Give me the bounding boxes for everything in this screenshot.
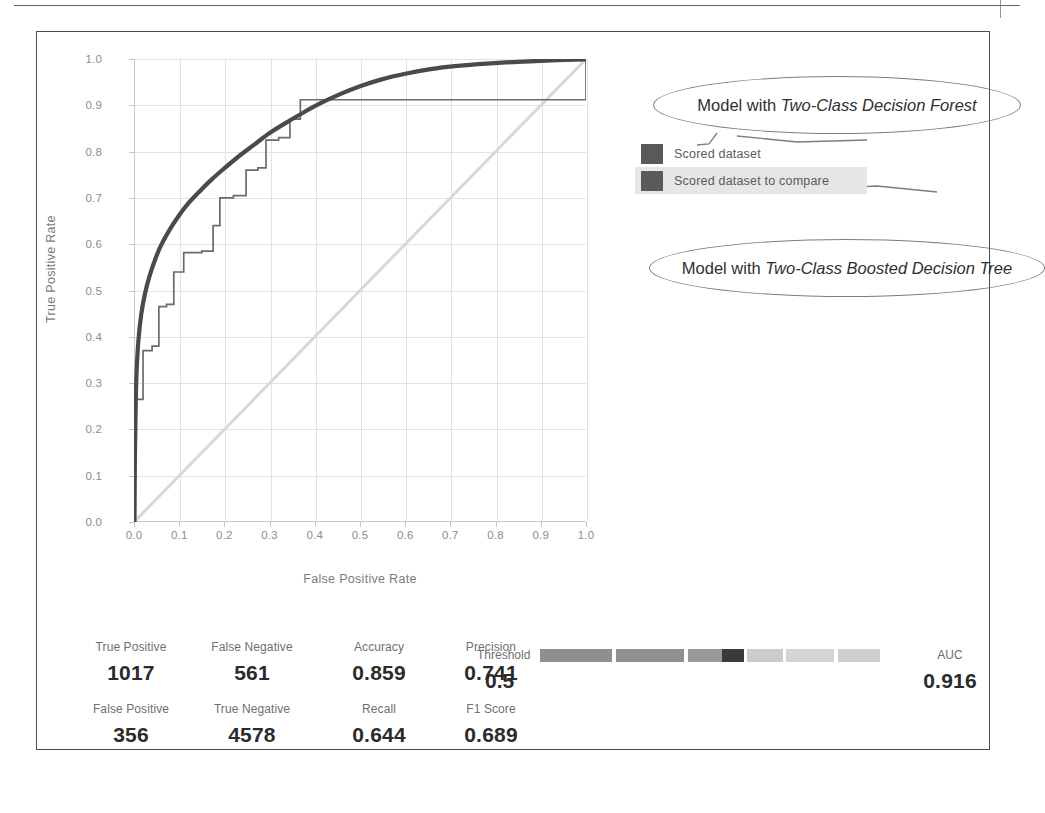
metrics-summary: True Positive 1017 False Positive 356 Fa…: [37, 640, 991, 748]
metric-value: 0.689: [431, 723, 551, 747]
document-top-rule: [14, 5, 1020, 6]
annotation-bottom-emphasis: Two-Class Boosted Decision Tree: [765, 259, 1012, 277]
threshold-slider[interactable]: [540, 649, 880, 662]
threshold-slider-segment[interactable]: [688, 649, 722, 662]
threshold-value: 0.5: [485, 669, 947, 693]
threshold-slider-segment[interactable]: [786, 649, 834, 662]
metric-false-negative: False Negative 561 True Negative 4578: [187, 640, 317, 747]
metric-value: 1017: [71, 661, 191, 685]
x-tick-mark: [405, 522, 406, 527]
metric-auc: AUC 0.916: [915, 648, 985, 693]
threshold-slider-thumb[interactable]: [722, 649, 744, 662]
threshold-slider-segment[interactable]: [747, 649, 783, 662]
x-tick-label: 0.5: [340, 529, 380, 541]
metric-value: 0.859: [319, 661, 439, 685]
threshold-label: Threshold: [477, 648, 530, 662]
x-tick-mark: [270, 522, 271, 527]
auc-label: AUC: [915, 648, 985, 662]
legend-swatch-scored-dataset: [641, 144, 663, 164]
metric-label: True Negative: [187, 702, 317, 716]
x-tick-mark: [541, 522, 542, 527]
x-tick-mark: [134, 522, 135, 527]
metric-label: Recall: [319, 702, 439, 716]
metric-label: False Positive: [71, 702, 191, 716]
y-tick-mark: [129, 522, 134, 523]
legend-label-scored-dataset: Scored dataset: [674, 147, 761, 161]
x-tick-label: 0.2: [204, 529, 244, 541]
metric-value: 0.644: [319, 723, 439, 747]
annotation-decision-forest: Model with Two-Class Decision Forest: [653, 76, 1021, 134]
metric-value: 356: [71, 723, 191, 747]
chart-legend: Scored dataset Scored dataset to compare: [635, 140, 965, 194]
legend-item-scored-dataset[interactable]: Scored dataset: [635, 140, 867, 167]
x-tick-label: 0.7: [430, 529, 470, 541]
y-tick-label: 0.8: [62, 146, 102, 158]
x-tick-label: 0.0: [114, 529, 154, 541]
metric-value: 4578: [187, 723, 317, 747]
auc-value: 0.916: [915, 669, 985, 693]
x-tick-label: 0.6: [385, 529, 425, 541]
legend-label-scored-dataset-to-compare: Scored dataset to compare: [674, 174, 829, 188]
metric-accuracy: Accuracy 0.859 Recall 0.644: [319, 640, 439, 747]
legend-swatch-scored-dataset-to-compare: [641, 171, 663, 191]
threshold-slider-segment[interactable]: [540, 649, 612, 662]
roc-evaluation-panel: True Positive Rate False Positive Rate 0…: [36, 31, 990, 750]
y-tick-label: 0.6: [62, 238, 102, 250]
metric-label: False Negative: [187, 640, 317, 654]
x-tick-mark: [224, 522, 225, 527]
x-tick-mark: [450, 522, 451, 527]
roc-curves: [134, 59, 586, 522]
x-tick-mark: [315, 522, 316, 527]
metric-true-positive: True Positive 1017 False Positive 356: [71, 640, 191, 747]
legend-item-scored-dataset-to-compare[interactable]: Scored dataset to compare: [635, 167, 867, 194]
threshold-control[interactable]: Threshold 0.5: [477, 648, 947, 693]
metric-value: 561: [187, 661, 317, 685]
annotation-boosted-decision-tree: Model with Two-Class Boosted Decision Tr…: [649, 239, 1045, 297]
x-tick-label: 0.1: [159, 529, 199, 541]
x-tick-mark: [496, 522, 497, 527]
gridline-vertical: [587, 59, 588, 521]
x-tick-label: 0.8: [476, 529, 516, 541]
y-tick-label: 0.5: [62, 285, 102, 297]
threshold-slider-segment[interactable]: [838, 649, 880, 662]
metric-label: F1 Score: [431, 702, 551, 716]
x-tick-label: 1.0: [566, 529, 606, 541]
roc-chart: True Positive Rate False Positive Rate 0…: [37, 32, 657, 632]
metric-label: Accuracy: [319, 640, 439, 654]
y-tick-label: 1.0: [62, 53, 102, 65]
y-tick-label: 0.0: [62, 516, 102, 528]
y-axis-title: True Positive Rate: [44, 109, 58, 429]
x-tick-label: 0.3: [250, 529, 290, 541]
metric-label: True Positive: [71, 640, 191, 654]
y-tick-label: 0.1: [62, 470, 102, 482]
y-tick-label: 0.2: [62, 423, 102, 435]
annotation-top-emphasis: Two-Class Decision Forest: [781, 96, 977, 114]
y-tick-label: 0.3: [62, 377, 102, 389]
document-top-rule-tick: [1000, 0, 1001, 18]
x-tick-mark: [586, 522, 587, 527]
x-tick-mark: [360, 522, 361, 527]
x-tick-mark: [179, 522, 180, 527]
y-tick-label: 0.7: [62, 192, 102, 204]
x-tick-label: 0.4: [295, 529, 335, 541]
threshold-slider-segment[interactable]: [616, 649, 684, 662]
y-tick-label: 0.9: [62, 99, 102, 111]
y-tick-label: 0.4: [62, 331, 102, 343]
x-axis-title: False Positive Rate: [134, 572, 586, 586]
x-tick-label: 0.9: [521, 529, 561, 541]
annotation-bottom-prefix: Model with: [682, 259, 765, 277]
annotation-top-prefix: Model with: [697, 96, 780, 114]
